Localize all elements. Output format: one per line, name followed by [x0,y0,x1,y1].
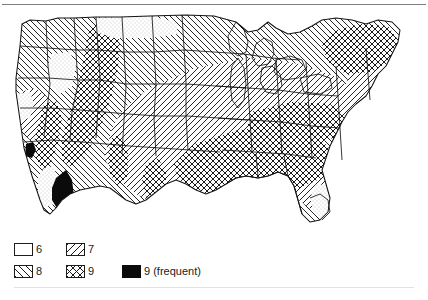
swatch-zone-9-frequent [122,265,141,278]
us-zone-map [0,8,428,236]
legend-label-zone-9: 9 [88,266,94,277]
top-divider [2,4,426,5]
bottom-divider [14,287,414,288]
legend-label-zone-8: 8 [36,266,42,277]
figure-root: 6 7 8 9 9 (frequent) [0,0,428,300]
legend-entry-zone-9-frequent: 9 (frequent) [122,265,201,278]
legend-entry-zone-8: 8 [14,265,42,278]
legend-entry-zone-7: 7 [66,243,94,256]
legend-label-zone-6: 6 [36,244,42,255]
swatch-zone-9 [66,265,85,278]
legend-label-zone-9-frequent: 9 (frequent) [144,266,201,277]
zone-legend: 6 7 8 9 9 (frequent) [14,243,414,285]
swatch-zone-6 [14,243,33,256]
swatch-zone-7 [66,243,85,256]
legend-entry-zone-6: 6 [14,243,42,256]
legend-entry-zone-9: 9 [66,265,94,278]
swatch-zone-8 [14,265,33,278]
legend-label-zone-7: 7 [88,244,94,255]
